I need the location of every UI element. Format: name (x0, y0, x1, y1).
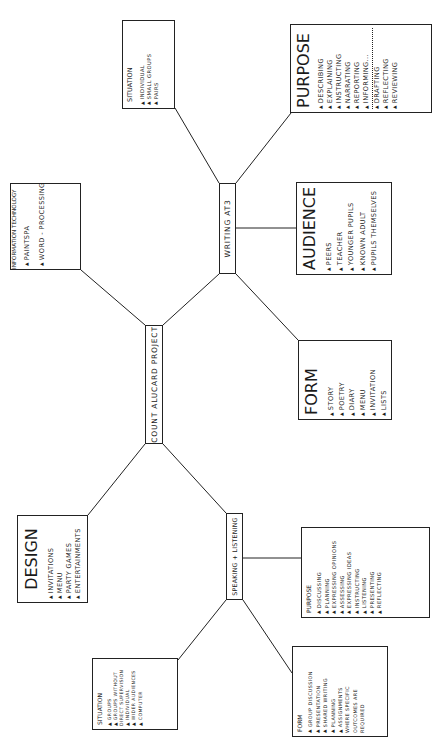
node-speaking-situation: SITUATION ▲GROUPS ▲GROUPS WITHOUT DIRECT… (92, 658, 178, 730)
triangle-bullet-icon: ▲ (336, 105, 341, 109)
node-title: FORM (299, 341, 324, 419)
list-item: ▲GROUPS WITHOUT DIRECT SUPERVISION (113, 666, 125, 726)
list-item: ▲INSTRUCTING (354, 531, 362, 614)
center-label: COUNT ALUCARD PROJECT (146, 326, 162, 443)
list-item: ▲INFORMING... (362, 28, 372, 109)
triangle-bullet-icon: ▲ (315, 729, 320, 733)
list-item: ▲EXPRESSING IDEAS (346, 531, 354, 614)
list-item: ▲PEERS (324, 186, 335, 271)
list-item: ▲PUPILS THEMSELVES (369, 186, 380, 271)
center-node: COUNT ALUCARD PROJECT (145, 325, 163, 444)
speaking-hub: SPEAKING + LISTENING (226, 513, 243, 600)
triangle-bullet-icon: ▲ (307, 729, 312, 733)
list-item: ▲LISTENING (361, 531, 369, 614)
node-title: FORM (293, 647, 306, 736)
triangle-bullet-icon: ▲ (318, 105, 323, 109)
triangle-bullet-icon: ▲ (324, 610, 329, 614)
triangle-bullet-icon: ▲ (322, 729, 327, 733)
list-item: ▲PARTY GAMES (65, 519, 74, 599)
triangle-bullet-icon: ▲ (377, 610, 382, 614)
list-item: ▲STORY (326, 344, 337, 416)
list-item: ▲REPORTING (353, 28, 362, 109)
list-item: ▲DIARY (347, 344, 358, 416)
triangle-bullet-icon: ▲ (339, 412, 344, 416)
list-item: ▲COMPUTER (138, 662, 144, 726)
list-item: ▲INDIVIDUAL (139, 24, 146, 105)
node-title: DESIGN (18, 516, 45, 602)
list-item: ▲PLANNING (330, 650, 338, 733)
triangle-bullet-icon: ▲ (371, 267, 376, 271)
list-item: ▲INSTRUCTING (335, 28, 344, 109)
list-item: ▲SMALL GROUPS (146, 24, 153, 105)
triangle-bullet-icon: ▲ (331, 610, 336, 614)
triangle-bullet-icon: ▲ (350, 412, 355, 416)
triangle-bullet-icon: ▲ (349, 267, 354, 271)
triangle-bullet-icon: ▲ (153, 101, 158, 105)
triangle-bullet-icon: ▲ (140, 101, 145, 105)
list-item: ▲WORD - PROCESSING (35, 187, 50, 266)
triangle-bullet-icon: ▲ (107, 722, 112, 726)
triangle-bullet-icon: ▲ (374, 105, 379, 109)
triangle-bullet-icon: ▲ (360, 267, 365, 271)
node-writing-purpose: PURPOSE ▲DESCRIBING ▲EXPLAINING ▲INSTRUC… (290, 24, 432, 113)
list-item: ▲REFLECTING (382, 28, 391, 109)
speaking-hub-label: SPEAKING + LISTENING (227, 514, 242, 599)
list-item: ▲REFLECTING (376, 531, 384, 614)
triangle-bullet-icon: ▲ (339, 610, 344, 614)
list-item: ▲EXPLAINING (326, 28, 335, 109)
triangle-bullet-icon: ▲ (330, 729, 335, 733)
list-item: ▲LISTS (379, 344, 390, 416)
list-item: ▲MENU (56, 519, 65, 599)
list-item: ▲DRAFTING (373, 28, 382, 109)
triangle-bullet-icon: ▲ (354, 105, 359, 109)
list-item: ▲SHARED WRITING (322, 650, 330, 733)
list-item: ▲DESCRIBING (317, 28, 326, 109)
triangle-bullet-icon: ▲ (131, 722, 136, 726)
list-item: ▲PRESENTING (369, 531, 377, 614)
triangle-bullet-icon: ▲ (383, 105, 388, 109)
triangle-bullet-icon: ▲ (326, 267, 331, 271)
list-item: ▲INVITATION (368, 344, 379, 416)
triangle-bullet-icon: ▲ (362, 610, 367, 614)
list-item: ▲GROUP DISCUSSION (307, 650, 315, 733)
triangle-bullet-icon: ▲ (48, 595, 53, 599)
triangle-bullet-icon: ▲ (354, 610, 359, 614)
list-item: ▲INVITATIONS (47, 519, 56, 599)
list-item: ▲NARRATING (344, 28, 353, 109)
triangle-bullet-icon: ▲ (364, 105, 369, 109)
triangle-bullet-icon: ▲ (371, 412, 376, 416)
node-writing-audience: AUDIENCE ▲PEERS ▲TEACHER ▲YOUNGER PUPILS… (296, 182, 392, 275)
node-title: SITUATION (123, 21, 137, 108)
list-item: ▲DISCUSSING (316, 531, 324, 614)
node-title: AUDIENCE (297, 183, 322, 274)
triangle-bullet-icon: ▲ (75, 595, 80, 599)
triangle-bullet-icon: ▲ (345, 105, 350, 109)
triangle-bullet-icon: ▲ (316, 610, 321, 614)
triangle-bullet-icon: ▲ (338, 729, 343, 733)
list-item: ▲TEACHER (335, 186, 346, 271)
list-item: ▲MENU (358, 344, 369, 416)
writing-hub-label: WRITING AT3 (220, 184, 235, 273)
node-writing-situation: SITUATION ▲INDIVIDUAL ▲SMALL GROUPS ▲PAI… (122, 20, 175, 109)
list-item: ▲EXPRESSING OPINIONS (331, 531, 339, 614)
list-item: ▲KNOWN ADULT (358, 186, 369, 271)
node-title: PURPOSE (302, 528, 315, 617)
list-item: ▲PRESENTATION (315, 650, 323, 733)
triangle-bullet-icon: ▲ (125, 722, 130, 726)
triangle-bullet-icon: ▲ (24, 262, 29, 266)
triangle-bullet-icon: ▲ (57, 595, 62, 599)
triangle-bullet-icon: ▲ (381, 412, 386, 416)
list-item: ▲REVIEWING (391, 28, 400, 109)
list-item: ▲PAIRS (153, 24, 160, 105)
node-title: PURPOSE (291, 25, 316, 112)
triangle-bullet-icon: ▲ (39, 262, 44, 266)
triangle-bullet-icon: ▲ (146, 101, 151, 105)
list-item: ▲PAINTSPA (20, 187, 35, 266)
triangle-bullet-icon: ▲ (138, 722, 143, 726)
triangle-bullet-icon: ▲ (338, 267, 343, 271)
node-design: DESIGN ▲INVITATIONS ▲MENU ▲PARTY GAMES ▲… (17, 515, 88, 603)
triangle-bullet-icon: ▲ (360, 412, 365, 416)
triangle-bullet-icon: ▲ (327, 105, 332, 109)
list-item: ▲ENTERTAINMENTS (74, 519, 83, 599)
list-item: ▲ASSESSING (339, 531, 347, 614)
